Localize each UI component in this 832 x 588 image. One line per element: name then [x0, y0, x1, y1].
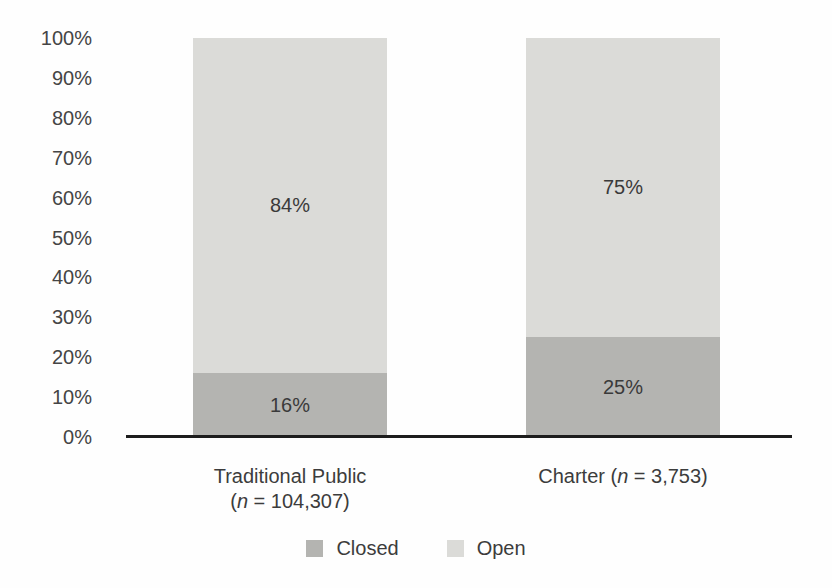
segment-value-label: 84% [270, 194, 310, 217]
segment-value-label: 75% [603, 176, 643, 199]
category-label-line1: Traditional Public [193, 464, 387, 489]
y-tick-label: 100% [0, 27, 92, 50]
bar-segment-closed: 25% [526, 337, 720, 437]
category-label-charter: Charter (n = 3,753) [526, 464, 720, 489]
y-tick-label: 80% [0, 106, 92, 129]
closed-swatch [306, 540, 323, 557]
y-tick-label: 70% [0, 146, 92, 169]
y-tick-label: 40% [0, 266, 92, 289]
y-tick-label: 30% [0, 306, 92, 329]
y-tick-label: 10% [0, 386, 92, 409]
open-swatch [447, 540, 464, 557]
legend-label-open: Open [477, 537, 526, 560]
y-tick-label: 60% [0, 186, 92, 209]
category-label-traditional-public: Traditional Public (n = 104,307) [193, 464, 387, 514]
legend-item-closed: Closed [306, 537, 398, 560]
x-axis-line [126, 435, 792, 438]
bar-segment-open: 75% [526, 38, 720, 337]
legend-item-open: Open [447, 537, 526, 560]
segment-value-label: 25% [603, 376, 643, 399]
bar-segment-open: 84% [193, 38, 387, 373]
y-tick-label: 20% [0, 346, 92, 369]
bar-charter: 75%25% [526, 38, 720, 437]
bar-segment-closed: 16% [193, 373, 387, 437]
segment-value-label: 16% [270, 394, 310, 417]
y-tick-label: 50% [0, 226, 92, 249]
category-label-line2: (n = 104,307) [193, 489, 387, 514]
legend-label-closed: Closed [336, 537, 398, 560]
y-tick-label: 0% [0, 426, 92, 449]
bar-traditional-public: 84%16% [193, 38, 387, 437]
legend: Closed Open [0, 536, 832, 560]
category-label-line1: Charter (n = 3,753) [526, 464, 720, 489]
stacked-bar-chart-figure: 100%90%80%70%60%50%40%30%20%10%0% 84%16%… [0, 0, 832, 588]
y-tick-label: 90% [0, 66, 92, 89]
